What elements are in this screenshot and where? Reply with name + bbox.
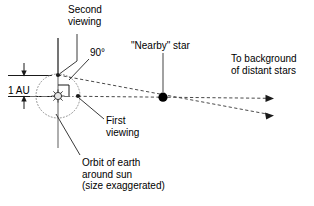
earth-marker-first-viewing xyxy=(76,94,80,98)
label-one-au: 1 AU xyxy=(8,85,30,97)
label-nearby-star: "Nearby" star xyxy=(131,40,190,52)
label-second-viewing: Second viewing xyxy=(68,4,102,27)
parallax-diagram-canvas: Second viewing 90° 1 AU "Nearby" star To… xyxy=(0,0,314,206)
orbit-caption-leader-line xyxy=(56,114,80,155)
sightline-first-viewing xyxy=(78,95,274,102)
au-dimension-arrow-top xyxy=(21,63,26,77)
label-right-angle: 90° xyxy=(90,47,105,59)
au-dimension-arrow-bottom xyxy=(21,96,26,110)
first-viewing-leader-line xyxy=(79,98,104,119)
second-viewing-leader-lines xyxy=(58,34,77,75)
sun-icon xyxy=(52,90,64,102)
nearby-star-dot xyxy=(158,93,167,102)
label-first-viewing: First viewing xyxy=(106,115,139,138)
angle-label-leader-line xyxy=(69,59,89,80)
label-to-background-stars: To background of distant stars xyxy=(231,53,297,76)
label-orbit-caption: Orbit of earth around sun (size exaggera… xyxy=(82,157,165,192)
